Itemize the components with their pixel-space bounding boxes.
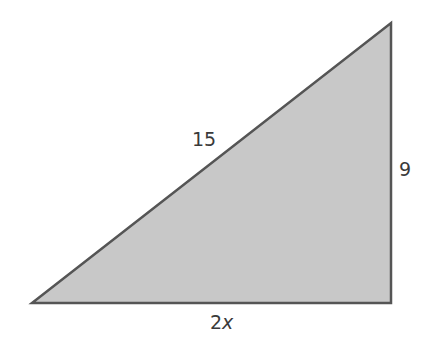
hypotenuse-label: 15 (192, 130, 216, 149)
triangle-canvas (0, 0, 434, 341)
triangle-diagram: 15 9 2x (0, 0, 434, 341)
base-variable: x (222, 311, 233, 333)
right-triangle-shape (32, 23, 391, 303)
base-coefficient: 2 (210, 311, 222, 333)
vertical-leg-label: 9 (399, 160, 411, 179)
base-label: 2x (210, 313, 233, 332)
